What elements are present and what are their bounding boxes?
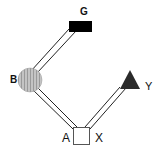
node-ax-square [74, 128, 90, 145]
edge-triangle-square [85, 87, 126, 129]
edge-b-square [32, 87, 77, 129]
label-g: G [80, 7, 88, 17]
label-a: A [62, 132, 70, 144]
diagram-canvas [0, 0, 161, 153]
label-b: B [10, 75, 17, 85]
label-y: Y [145, 81, 152, 92]
node-y-triangle [120, 70, 140, 89]
label-x: X [95, 132, 103, 144]
node-g-rectangle [69, 21, 92, 32]
node-b-circle [18, 68, 42, 92]
edge-g-b [31, 29, 76, 73]
